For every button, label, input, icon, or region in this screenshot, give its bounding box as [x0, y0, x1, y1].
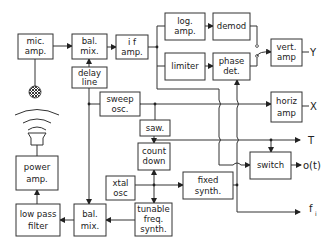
output-o-label: o(t) — [303, 160, 321, 171]
svg-text:amp.: amp. — [121, 47, 143, 57]
limiter-block: limiter — [165, 53, 205, 80]
output-fi-label: f — [309, 203, 313, 214]
svg-text:xtal: xtal — [113, 178, 129, 188]
block-diagram: mic. amp. bal. mix. i f amp. delay line … — [0, 0, 333, 246]
svg-text:amp: amp — [277, 108, 296, 118]
svg-text:saw.: saw. — [146, 123, 165, 133]
svg-text:vert.: vert. — [277, 42, 297, 52]
svg-text:det.: det. — [223, 66, 240, 76]
output-x-label: X — [310, 101, 317, 112]
svg-text:low pass: low pass — [20, 209, 57, 219]
speaker-icon — [15, 110, 59, 146]
svg-text:power: power — [24, 162, 51, 172]
delay-line-block: delay line — [72, 67, 107, 88]
svg-text:osc: osc — [113, 188, 128, 198]
sweep-osc-block: sweep osc. — [100, 92, 140, 116]
svg-text:sweep: sweep — [106, 94, 133, 104]
low-pass-filter-block: low pass filter — [16, 204, 60, 236]
svg-text:freq.: freq. — [144, 214, 164, 224]
output-y-label: Y — [309, 47, 317, 58]
mic-amp-block: mic. amp. — [18, 34, 53, 59]
output-t-label: T — [307, 135, 315, 146]
svg-text:bal.: bal. — [82, 36, 98, 46]
log-amp-block: log. amp. — [165, 13, 205, 40]
switch-block: switch — [250, 152, 291, 179]
svg-text:amp: amp — [277, 52, 296, 62]
xtal-osc-block: xtal osc — [106, 176, 135, 200]
svg-text:switch: switch — [257, 160, 284, 170]
svg-text:osc.: osc. — [111, 104, 128, 114]
svg-text:count: count — [142, 146, 167, 156]
svg-text:fixed: fixed — [198, 175, 219, 185]
svg-text:synth.: synth. — [140, 224, 166, 234]
phase-det-block: phase det. — [213, 53, 250, 80]
horiz-amp-block: horiz amp — [271, 92, 302, 122]
svg-text:amp.: amp. — [174, 26, 196, 36]
svg-text:horiz: horiz — [276, 96, 297, 106]
svg-text:mic.: mic. — [26, 36, 44, 46]
svg-text:amp.: amp. — [26, 174, 48, 184]
microphone-icon — [29, 86, 41, 98]
svg-text:phase: phase — [219, 56, 245, 66]
svg-text:bal.: bal. — [82, 209, 98, 219]
svg-text:down: down — [143, 156, 166, 166]
svg-text:amp.: amp. — [25, 46, 47, 56]
svg-text:filter: filter — [28, 221, 48, 231]
svg-text:mix.: mix. — [80, 46, 98, 56]
svg-text:tunable: tunable — [137, 204, 169, 214]
fixed-synth-block: fixed synth. — [183, 172, 233, 199]
demod-block: demod — [213, 13, 250, 40]
svg-text:demod: demod — [217, 21, 247, 31]
svg-text:mix.: mix. — [81, 221, 99, 231]
output-fi-subscript: i — [315, 210, 317, 217]
vert-amp-block: vert. amp — [271, 39, 302, 66]
svg-text:i f: i f — [128, 37, 137, 47]
svg-text:limiter: limiter — [171, 61, 199, 71]
saw-block: saw. — [140, 120, 170, 136]
bal-mix-bottom-block: bal. mix. — [74, 204, 106, 236]
count-down-block: count down — [138, 143, 170, 170]
if-amp-block: i f amp. — [116, 35, 148, 59]
svg-text:log.: log. — [177, 16, 193, 26]
bal-mix-top-block: bal. mix. — [72, 34, 107, 59]
power-amp-block: power amp. — [16, 156, 58, 190]
svg-text:line: line — [82, 77, 97, 87]
svg-text:synth.: synth. — [195, 186, 221, 196]
tunable-freq-synth-block: tunable freq. synth. — [135, 203, 172, 236]
